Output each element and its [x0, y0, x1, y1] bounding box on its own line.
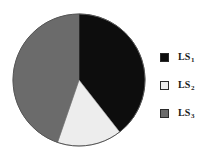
legend-swatch-ls1 [160, 53, 169, 62]
legend-item-ls3[interactable]: LS3 [160, 106, 194, 120]
pie-slices [13, 14, 145, 146]
pie-chart-svg [12, 12, 147, 148]
legend-swatch-ls2 [160, 81, 169, 90]
legend-label-ls1: LS1 [178, 52, 194, 62]
chart-legend: LS1 LS2 LS3 [160, 48, 218, 130]
pie-chart-figure: LS1 LS2 LS3 [0, 0, 220, 163]
legend-item-ls1[interactable]: LS1 [160, 50, 194, 64]
legend-label-ls3: LS3 [178, 108, 194, 118]
legend-item-ls2[interactable]: LS2 [160, 78, 194, 92]
legend-label-ls2: LS2 [178, 80, 194, 90]
pie-chart-plot-area [12, 12, 147, 148]
legend-swatch-ls3 [160, 109, 169, 118]
